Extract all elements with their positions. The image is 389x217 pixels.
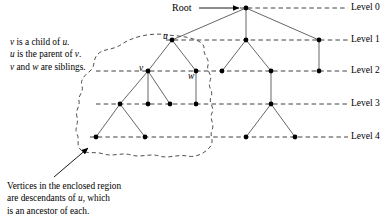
edge-l3e-l4c [246,104,271,137]
vertex-root[interactable] [244,6,249,11]
level-lines [90,8,348,137]
vertex-l3a[interactable] [118,102,123,107]
tree-diagram-figure: Root Level 0 Level 1 Level 2 Level 3 Lev… [0,0,389,217]
edge-u-v [148,40,172,71]
vertex-r1[interactable] [317,38,322,43]
tree-edges [96,8,319,137]
edge-l3a-l4a [96,104,120,137]
vertex-l4d[interactable] [293,135,298,140]
edge-root-r1 [246,8,319,40]
edge-m1-m2b [246,40,271,71]
vertex-v[interactable] [146,69,151,74]
region-pointer-arrow [54,148,88,177]
tree-graphics [0,0,389,217]
edge-v-l3a [120,71,148,104]
vertex-m2b[interactable] [269,69,274,74]
edge-root-u [172,8,246,40]
edge-u-w [172,40,196,71]
vertex-l3c[interactable] [168,102,173,107]
edge-l3e-l4d [271,104,295,137]
vertex-w[interactable] [194,69,199,74]
vertex-m1[interactable] [244,38,249,43]
vertex-r2[interactable] [317,69,322,74]
edge-m1-m2a [222,40,246,71]
vertex-m2a[interactable] [220,69,225,74]
vertex-l4c[interactable] [244,135,249,140]
vertex-l3e[interactable] [269,102,274,107]
vertex-l3b[interactable] [146,102,151,107]
edge-v-l3c [148,71,170,104]
vertex-l3d[interactable] [194,102,199,107]
vertex-l4b[interactable] [143,135,148,140]
edge-l3a-l4b [120,104,145,137]
vertex-l4a[interactable] [94,135,99,140]
vertex-u[interactable] [170,38,175,43]
